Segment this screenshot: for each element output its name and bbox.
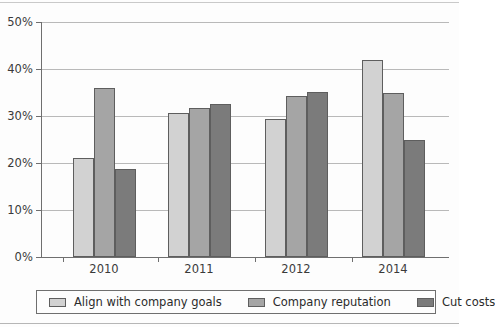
legend-label: Cut costs [442,295,495,309]
bar-group-2014 [362,22,425,257]
legend-swatch-cut-costs [417,298,434,307]
bar-2011-company-reputation [189,108,210,257]
x-tickmark [158,258,159,262]
bar-2011-cut-costs [210,104,231,257]
y-tick-label: 0% [15,250,33,264]
bar-2010-align-with-company-goals [73,158,94,257]
bar-2010-company-reputation [94,88,115,257]
y-tickmark [36,257,41,258]
bar-2011-align-with-company-goals [168,113,189,257]
bar-2012-cut-costs [307,92,328,257]
legend-item-cut-costs[interactable]: Cut costs [417,295,495,309]
chart-legend: Align with company goalsCompany reputati… [36,290,436,314]
y-axis-line [41,22,42,258]
bar-2012-company-reputation [286,96,307,257]
bar-2012-align-with-company-goals [265,119,286,257]
y-tick-label: 40% [7,62,33,76]
x-tickmark [63,258,64,262]
x-tickmark [352,258,353,262]
legend-swatch-align-with-company-goals [49,298,66,307]
x-tickmark [255,258,256,262]
legend-label: Company reputation [273,295,391,309]
plot-area: 0%10%20%30%40%50% 2010201120122014 [41,22,449,258]
page-bottom-rule [0,323,459,324]
bar-2014-align-with-company-goals [362,60,383,257]
y-tickmark [36,163,41,164]
legend-swatch-company-reputation [248,298,265,307]
y-tickmark [36,69,41,70]
legend-item-align-with-company-goals[interactable]: Align with company goals [49,295,222,309]
y-tickmark [36,22,41,23]
page-top-rule [0,2,459,3]
x-tick-label-2010: 2010 [89,262,118,276]
legend-item-company-reputation[interactable]: Company reputation [248,295,391,309]
y-tick-label: 10% [7,203,33,217]
bar-2014-cut-costs [404,140,425,258]
x-tick-label-2012: 2012 [281,262,310,276]
bar-2010-cut-costs [115,169,136,257]
y-tickmark [36,210,41,211]
y-tick-label: 30% [7,109,33,123]
x-axis-line [41,257,449,258]
bar-group-2010 [73,22,136,257]
bar-group-2012 [265,22,328,257]
x-tick-label-2014: 2014 [378,262,407,276]
bar-group-2011 [168,22,231,257]
y-tick-label: 20% [7,156,33,170]
x-tick-label-2011: 2011 [184,262,213,276]
y-tickmark [36,116,41,117]
y-tick-label: 50% [7,15,33,29]
legend-label: Align with company goals [74,295,222,309]
bar-2014-company-reputation [383,93,404,258]
